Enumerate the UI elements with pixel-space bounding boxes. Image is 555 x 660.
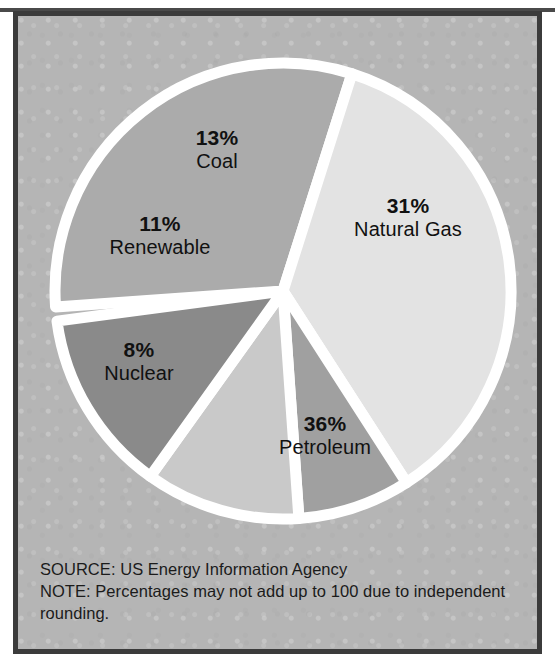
footnote-note: NOTE: Percentages may not add up to 100 … <box>40 581 518 625</box>
slice-value-nuclear: 8% <box>74 338 204 362</box>
slice-name-nuclear: Nuclear <box>74 362 204 384</box>
slice-label-coal: 13% Coal <box>152 126 282 172</box>
footnote-source: SOURCE: US Energy Information Agency <box>40 559 518 581</box>
chart-frame: 31% Natural Gas 36% Petroleum 8% Nuclear… <box>13 11 542 654</box>
slice-name-renewable: Renewable <box>80 236 240 258</box>
pie-chart <box>18 16 537 536</box>
slice-label-petroleum: 36% Petroleum <box>240 412 410 458</box>
slice-label-renewable: 11% Renewable <box>80 212 240 258</box>
slice-value-renewable: 11% <box>80 212 240 236</box>
slice-value-natural-gas: 31% <box>318 194 498 218</box>
chart-footnotes: SOURCE: US Energy Information Agency NOT… <box>40 559 518 624</box>
slice-name-coal: Coal <box>152 150 282 172</box>
slice-value-coal: 13% <box>152 126 282 150</box>
slice-name-natural-gas: Natural Gas <box>318 218 498 240</box>
slice-name-petroleum: Petroleum <box>240 436 410 458</box>
slice-label-natural-gas: 31% Natural Gas <box>318 194 498 240</box>
slice-label-nuclear: 8% Nuclear <box>74 338 204 384</box>
slice-value-petroleum: 36% <box>240 412 410 436</box>
figure-root: 31% Natural Gas 36% Petroleum 8% Nuclear… <box>0 0 555 660</box>
pie-chart-svg <box>18 16 537 536</box>
